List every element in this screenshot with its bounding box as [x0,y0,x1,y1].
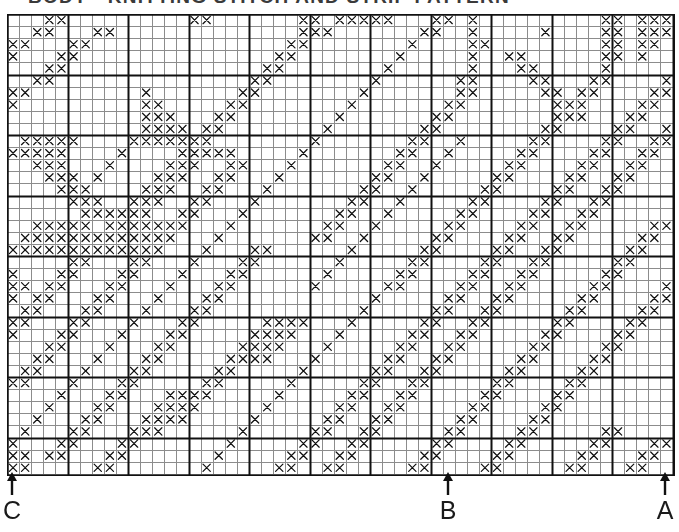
chart-marker-label: A [645,496,679,524]
cross-stitch-chart [7,14,675,476]
page-title: BODY - KNITTING STITCH AND STRIP PATTERN [28,0,510,8]
chart-title-strip: BODY - KNITTING STITCH AND STRIP PATTERN [0,0,679,8]
chart-marker-a: A [645,472,679,524]
arrow-up-icon [428,472,468,496]
chart-marker-c: C [0,472,32,524]
arrow-up-icon [0,472,32,496]
chart-markers-row: CBA [0,472,679,532]
pattern-grid [7,14,675,476]
chart-marker-label: C [0,496,32,524]
chart-marker-b: B [428,472,468,524]
arrow-up-icon [645,472,679,496]
chart-marker-label: B [428,496,468,524]
